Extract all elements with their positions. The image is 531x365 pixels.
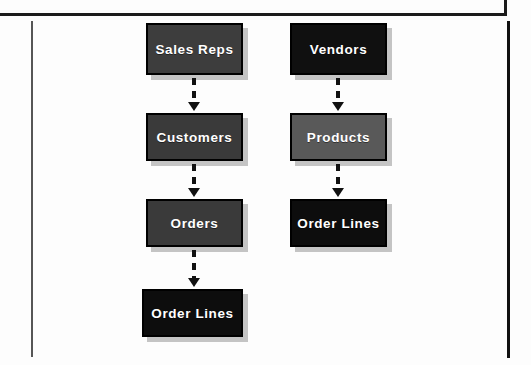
page-right-rule	[507, 21, 510, 358]
page-top-rule	[0, 13, 507, 16]
edge-customers-to-orders	[188, 164, 200, 197]
edge-orders-to-order-lines	[188, 250, 200, 287]
node-sales-reps[interactable]: Sales Reps	[146, 23, 243, 75]
edge-stem	[192, 78, 196, 102]
edge-stem	[192, 250, 196, 278]
node-order-lines-sales[interactable]: Order Lines	[142, 289, 243, 337]
node-customers[interactable]: Customers	[146, 113, 243, 161]
node-label: Orders	[171, 216, 219, 231]
page-top-right-rule	[504, 0, 507, 16]
arrowhead-icon	[332, 102, 344, 111]
edge-stem	[336, 78, 340, 102]
diagram-page: Sales Reps Customers Orders Order Lines …	[0, 0, 531, 365]
arrowhead-icon	[188, 188, 200, 197]
edge-stem	[336, 164, 340, 188]
node-label: Order Lines	[151, 306, 233, 321]
edge-stem	[192, 164, 196, 188]
node-products[interactable]: Products	[290, 113, 387, 161]
edge-sales-reps-to-customers	[188, 78, 200, 111]
arrowhead-icon	[188, 278, 200, 287]
arrowhead-icon	[188, 102, 200, 111]
page-left-rule	[31, 21, 33, 357]
node-label: Products	[307, 130, 370, 145]
node-label: Vendors	[310, 42, 367, 57]
arrowhead-icon	[332, 188, 344, 197]
edge-vendors-to-products	[332, 78, 344, 111]
node-label: Customers	[157, 130, 233, 145]
node-orders[interactable]: Orders	[146, 199, 243, 247]
node-label: Order Lines	[297, 216, 379, 231]
edge-products-to-order-lines	[332, 164, 344, 197]
node-order-lines-purchasing[interactable]: Order Lines	[290, 199, 387, 247]
node-vendors[interactable]: Vendors	[290, 23, 387, 75]
node-label: Sales Reps	[155, 42, 233, 57]
